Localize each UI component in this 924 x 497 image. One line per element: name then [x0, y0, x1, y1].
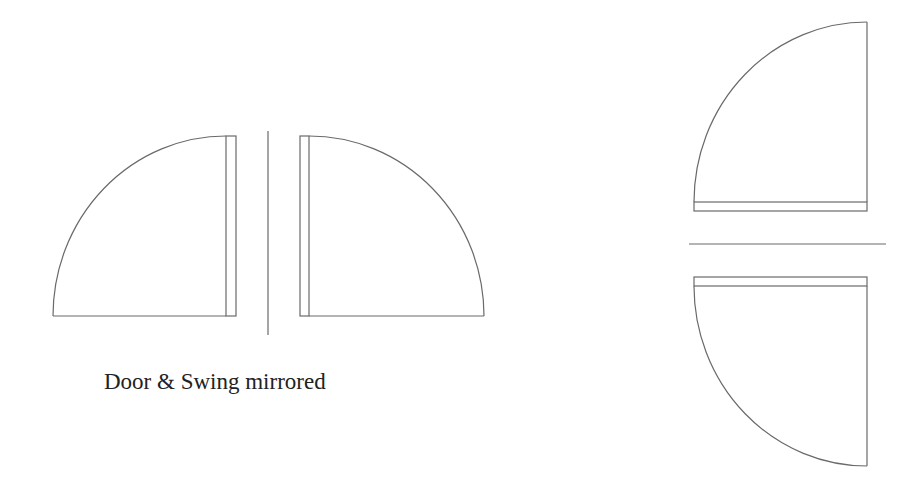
right-door-swing-arc — [309, 136, 484, 316]
bottom-door-swing-arc — [694, 286, 867, 466]
diagram-caption: Door & Swing mirrored — [104, 369, 326, 395]
top-door-symbol — [694, 22, 867, 211]
left-door-leaf — [226, 136, 236, 316]
top-door-leaf — [694, 202, 867, 211]
left-door-swing-arc — [53, 136, 226, 316]
bottom-door-symbol — [694, 277, 867, 466]
right-door-symbol — [300, 136, 484, 316]
right-door-leaf — [300, 136, 309, 316]
top-door-swing-arc — [694, 22, 867, 202]
bottom-door-leaf — [694, 277, 867, 286]
left-door-symbol — [53, 136, 236, 316]
door-swing-diagram — [0, 0, 924, 497]
